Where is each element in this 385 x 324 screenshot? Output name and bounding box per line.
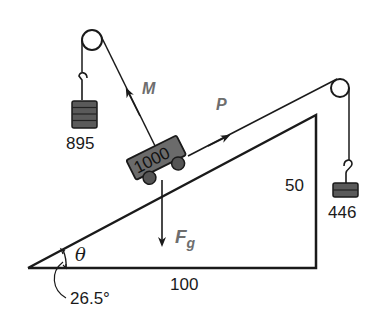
right-pulley bbox=[331, 79, 349, 97]
angle-value-label: 26.5° bbox=[70, 289, 110, 308]
p-force-label: P bbox=[216, 96, 227, 113]
base-length-label: 100 bbox=[170, 275, 198, 294]
incline-pulley-diagram: θ 26.5° 100 50 M 895 P 446 1000 bbox=[0, 0, 385, 324]
right-mass-label: 446 bbox=[328, 203, 356, 222]
right-hanging-mass bbox=[333, 183, 358, 197]
left-hanging-mass bbox=[72, 101, 97, 128]
left-hook-icon bbox=[79, 73, 87, 100]
left-mass-label: 895 bbox=[66, 134, 94, 153]
fg-force-label: Fg bbox=[175, 226, 196, 251]
angle-theta-arc bbox=[61, 249, 66, 268]
angle-theta-label: θ bbox=[75, 244, 86, 265]
m-force-arrow bbox=[128, 92, 140, 116]
m-force-label: M bbox=[142, 80, 156, 97]
left-pulley bbox=[82, 30, 102, 50]
p-force-arrow bbox=[208, 137, 226, 146]
height-label: 50 bbox=[285, 176, 304, 195]
cart: 1000 bbox=[126, 135, 191, 189]
right-hook-icon bbox=[344, 160, 352, 183]
